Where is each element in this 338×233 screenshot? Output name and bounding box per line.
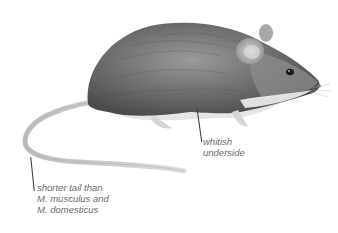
- annotation-tail-line-2: M. musculus and: [37, 193, 109, 204]
- ear-back: [259, 24, 273, 42]
- annotation-tail-line-1: shorter tail than: [37, 182, 109, 193]
- annotation-underside-line-1: whitish: [203, 136, 245, 147]
- annotation-underside-line-2: underside: [203, 147, 245, 158]
- eye: [286, 69, 294, 75]
- annotation-tail-line-3: M. domesticus: [37, 204, 109, 215]
- annotation-underside: whitish underside: [203, 136, 245, 158]
- annotation-tail: shorter tail than M. musculus and M. dom…: [37, 182, 109, 215]
- mouse-illustration: whitish underside shorter tail than M. m…: [0, 0, 338, 233]
